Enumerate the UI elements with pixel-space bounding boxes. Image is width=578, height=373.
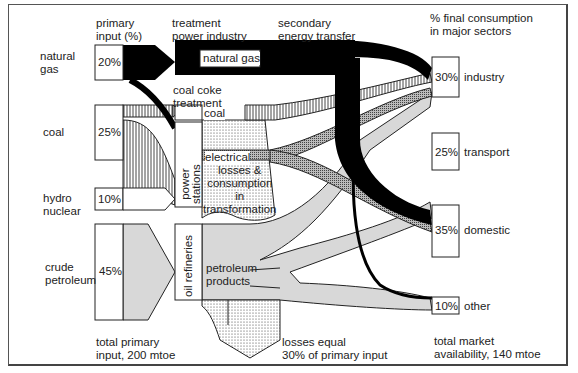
process-oil-refineries: oil refineries: [182, 235, 195, 297]
process-coal: coal: [204, 107, 225, 120]
sector-industry: industry: [464, 71, 504, 84]
header-final-consumption: % final consumption in major sectors: [430, 12, 533, 38]
process-electrical: electrical: [205, 151, 250, 164]
source-coal: coal: [43, 126, 64, 139]
header-treatment: treatment power industry: [172, 17, 247, 43]
footer-total-market: total market availability, 140 mtoe: [434, 335, 541, 361]
source-coal-pct: 25%: [98, 126, 121, 139]
sector-other-pct: 10%: [435, 300, 458, 313]
header-secondary: secondary energy transfer: [278, 17, 355, 43]
sector-transport-pct: 25%: [435, 146, 458, 159]
flow-crude-petroleum: [123, 224, 175, 320]
process-power-stations: power stations: [180, 164, 202, 204]
process-natural-gas: natural gas: [203, 52, 260, 65]
sector-domestic-pct: 35%: [435, 224, 458, 237]
source-crude-pct: 45%: [99, 265, 122, 278]
header-primary-input: primary input (%): [96, 17, 142, 43]
process-petroleum-products: petroleum products: [206, 262, 257, 288]
process-losses: losses & consumption in transformation: [203, 164, 277, 216]
source-natural-gas: natural gas: [40, 50, 75, 76]
sector-other: other: [464, 300, 490, 313]
footer-total-primary: total primary input, 200 mtoe: [96, 336, 175, 362]
sector-industry-pct: 30%: [435, 71, 458, 84]
source-crude-petroleum: crude petroleum: [45, 261, 96, 287]
source-hydro-pct: 10%: [98, 193, 121, 206]
sector-boxes: [432, 57, 459, 314]
sector-domestic: domestic: [464, 224, 510, 237]
source-natural-gas-pct: 20%: [98, 56, 121, 69]
sector-transport: transport: [464, 146, 509, 159]
source-hydro-nuclear: hydro nuclear: [43, 192, 81, 218]
sankey-diagram: [0, 0, 578, 373]
footer-losses: losses equal 30% of primary input: [282, 336, 387, 362]
